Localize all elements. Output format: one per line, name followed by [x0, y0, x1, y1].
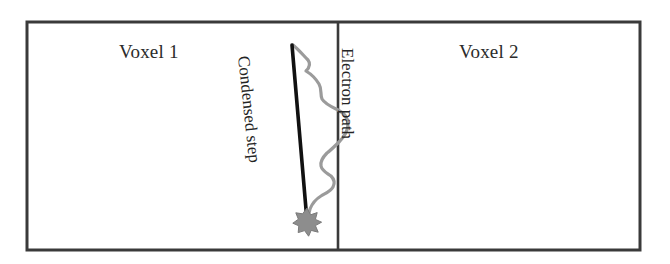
figure-canvas: Voxel 1 Voxel 2 Condensed step Electron …	[0, 0, 670, 264]
voxel-1-label: Voxel 1	[119, 41, 179, 63]
voxel-2-label: Voxel 2	[459, 41, 519, 63]
voxel-diagram-svg	[0, 0, 670, 264]
electron-path-label: Electron path	[337, 48, 357, 139]
